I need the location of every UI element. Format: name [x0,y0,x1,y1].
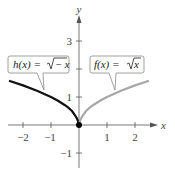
svg-text:h(x) =: h(x) = [13,58,41,71]
y-tick-label: −1 [60,147,72,159]
y-axis-label: y [76,3,82,15]
x-tick-label: −2 [17,131,29,143]
x-axis-label: x [160,119,166,131]
y-tick-label: 1 [67,91,73,103]
origin-point [76,122,82,128]
x-axis-arrow-icon [150,123,158,128]
svg-text:f(x) =: f(x) = [94,58,119,71]
y-axis-arrow-icon [77,15,82,23]
f-label-prefix: f(x) = [94,58,119,71]
h-label-prefix: h(x) = [13,58,41,71]
h-callout: h(x) = − x [8,56,70,90]
y-tick-label: 3 [67,35,73,47]
f-label-radicand: x [133,58,139,70]
x-axis: x −2 −1 1 2 [8,119,166,143]
y-axis: y 3 1 −1 [60,3,82,168]
x-tick-label: −1 [44,131,56,143]
chart: x −2 −1 1 2 y 3 1 −1 h(x) = − x [0,0,175,176]
h-label-radicand: − x [55,59,70,70]
x-tick-label: 2 [132,131,138,143]
x-tick-label: 1 [104,131,110,143]
